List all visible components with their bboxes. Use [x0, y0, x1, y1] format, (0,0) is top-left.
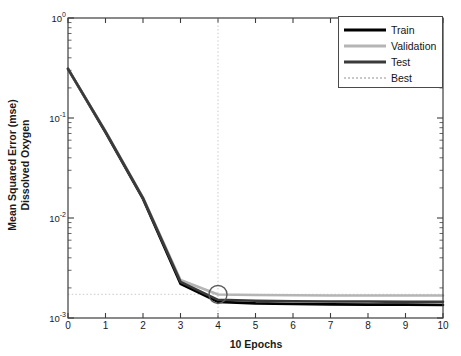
legend-swatch-test-icon [344, 56, 386, 68]
x-tick-label-7: 7 [328, 320, 334, 331]
x-axis-title: 10 Epochs [68, 338, 444, 350]
legend-label-best: Best [391, 72, 412, 84]
legend-swatch-validation-icon [344, 40, 386, 52]
x-tick-label-2: 2 [140, 320, 146, 331]
figure-canvas: Mean Squared Error (mse) Dissolved Oxyge… [0, 0, 461, 356]
legend-item-best[interactable]: Best [339, 70, 442, 86]
legend-label-train: Train [391, 24, 415, 36]
legend-label-test: Test [391, 56, 410, 68]
legend-item-test[interactable]: Test [339, 54, 442, 70]
series-line-test [68, 69, 443, 302]
legend-item-train[interactable]: Train [339, 22, 442, 38]
x-tick-label-8: 8 [365, 320, 371, 331]
x-tick-label-0: 0 [65, 320, 71, 331]
series-line-train [68, 69, 443, 305]
legend-item-validation[interactable]: Validation [339, 38, 442, 54]
x-tick-label-10: 10 [437, 320, 448, 331]
chart-legend: Train Validation Test Best [338, 16, 443, 88]
legend-swatch-best-icon [344, 72, 386, 84]
series-line-validation [68, 69, 443, 296]
legend-swatch-train-icon [344, 24, 386, 36]
x-tick-label-6: 6 [290, 320, 296, 331]
x-tick-label-5: 5 [253, 320, 259, 331]
x-tick-label-1: 1 [103, 320, 109, 331]
x-tick-label-9: 9 [403, 320, 409, 331]
x-tick-label-3: 3 [178, 320, 184, 331]
x-tick-label-4: 4 [215, 320, 221, 331]
legend-label-validation: Validation [391, 40, 436, 52]
